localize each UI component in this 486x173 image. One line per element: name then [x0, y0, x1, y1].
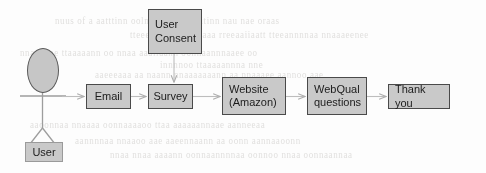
actor-user-label: User: [25, 142, 63, 162]
node-user-consent[interactable]: User Consent: [148, 9, 202, 54]
node-thank-you-label: Thank you: [395, 83, 443, 110]
node-user-consent-line2: Consent: [155, 32, 196, 46]
node-email-label: Email: [95, 90, 123, 104]
actor-stick-body: [20, 92, 66, 144]
node-website-line1: Website: [229, 83, 269, 97]
node-website-line2: (Amazon): [229, 96, 277, 110]
actor-user-label-text: User: [32, 146, 55, 159]
actor-head-icon: [27, 48, 59, 93]
diagram-canvas: nuus of a aatttinn oolnnmmaaes wiitinn n…: [0, 0, 486, 173]
node-website-amazon[interactable]: Website (Amazon): [222, 77, 286, 115]
node-webqual-questions[interactable]: WebQual questions: [307, 77, 367, 115]
node-webqual-line1: WebQual: [314, 83, 360, 97]
node-user-consent-line1: User: [155, 18, 178, 32]
node-webqual-line2: questions: [314, 96, 361, 110]
node-email[interactable]: Email: [86, 84, 131, 109]
node-survey-label: Survey: [153, 90, 187, 104]
node-survey[interactable]: Survey: [148, 84, 193, 109]
node-thank-you[interactable]: Thank you: [388, 84, 450, 109]
